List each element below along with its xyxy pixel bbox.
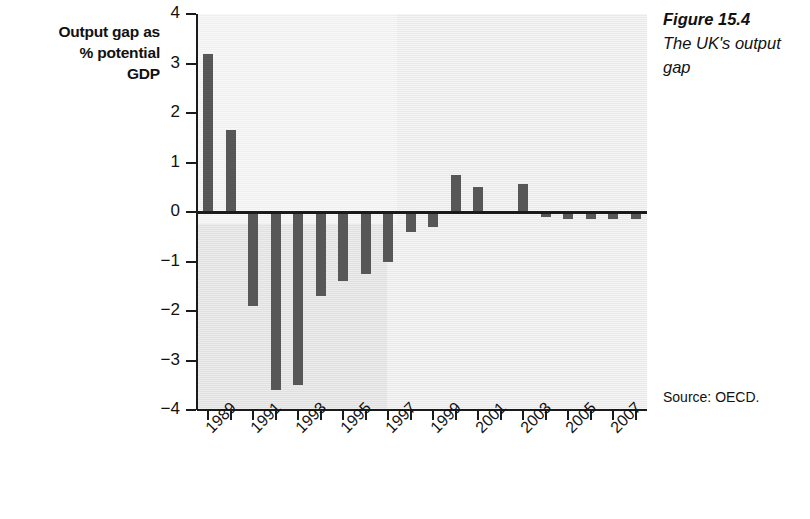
bar-1989: [203, 54, 213, 212]
bar-1993: [293, 212, 303, 385]
bar-1990: [226, 130, 236, 212]
y-axis-tick-label: 0: [140, 201, 180, 221]
bar-2003: [518, 184, 528, 212]
figure-title: The UK's output gap: [663, 32, 803, 80]
bar-1991: [248, 212, 258, 306]
y-axis-tick-label: 1: [140, 152, 180, 172]
y-axis-tick: [186, 63, 196, 65]
y-axis-tick-label: −1: [140, 251, 180, 271]
source-note: Source: OECD.: [663, 389, 803, 405]
y-axis-tick-label: 2: [140, 102, 180, 122]
y-axis-line: [196, 14, 198, 410]
bar-2000: [451, 175, 461, 212]
bar-1992: [271, 212, 281, 390]
bar-1997: [383, 212, 393, 262]
bar-1999: [428, 212, 438, 227]
y-axis-tick: [186, 409, 196, 411]
y-axis-tick: [186, 360, 196, 362]
y-axis-tick-labels: 43210−1−2−3−4: [136, 0, 180, 519]
y-axis-tick-label: 3: [140, 53, 180, 73]
zero-baseline: [197, 211, 647, 214]
y-axis-tick: [186, 162, 196, 164]
y-axis-tick: [186, 13, 196, 15]
y-axis-tick-label: −4: [140, 399, 180, 419]
bar-1994: [316, 212, 326, 296]
figure-number: Figure 15.4: [663, 8, 803, 32]
y-axis-tick: [186, 310, 196, 312]
bar-2001: [473, 187, 483, 212]
y-axis-tick: [186, 261, 196, 263]
bar-1998: [406, 212, 416, 232]
bar-1996: [361, 212, 371, 274]
y-axis-tick-label: −3: [140, 350, 180, 370]
y-axis-tick: [186, 112, 196, 114]
bar-1995: [338, 212, 348, 281]
figure-caption: Figure 15.4 The UK's output gap: [663, 8, 803, 80]
y-axis-tick-label: 4: [140, 3, 180, 23]
y-axis-tick: [186, 211, 196, 213]
figure-output-gap: Output gap as % potential GDP 43210−1−2−…: [0, 0, 810, 519]
y-axis-tick-label: −2: [140, 300, 180, 320]
